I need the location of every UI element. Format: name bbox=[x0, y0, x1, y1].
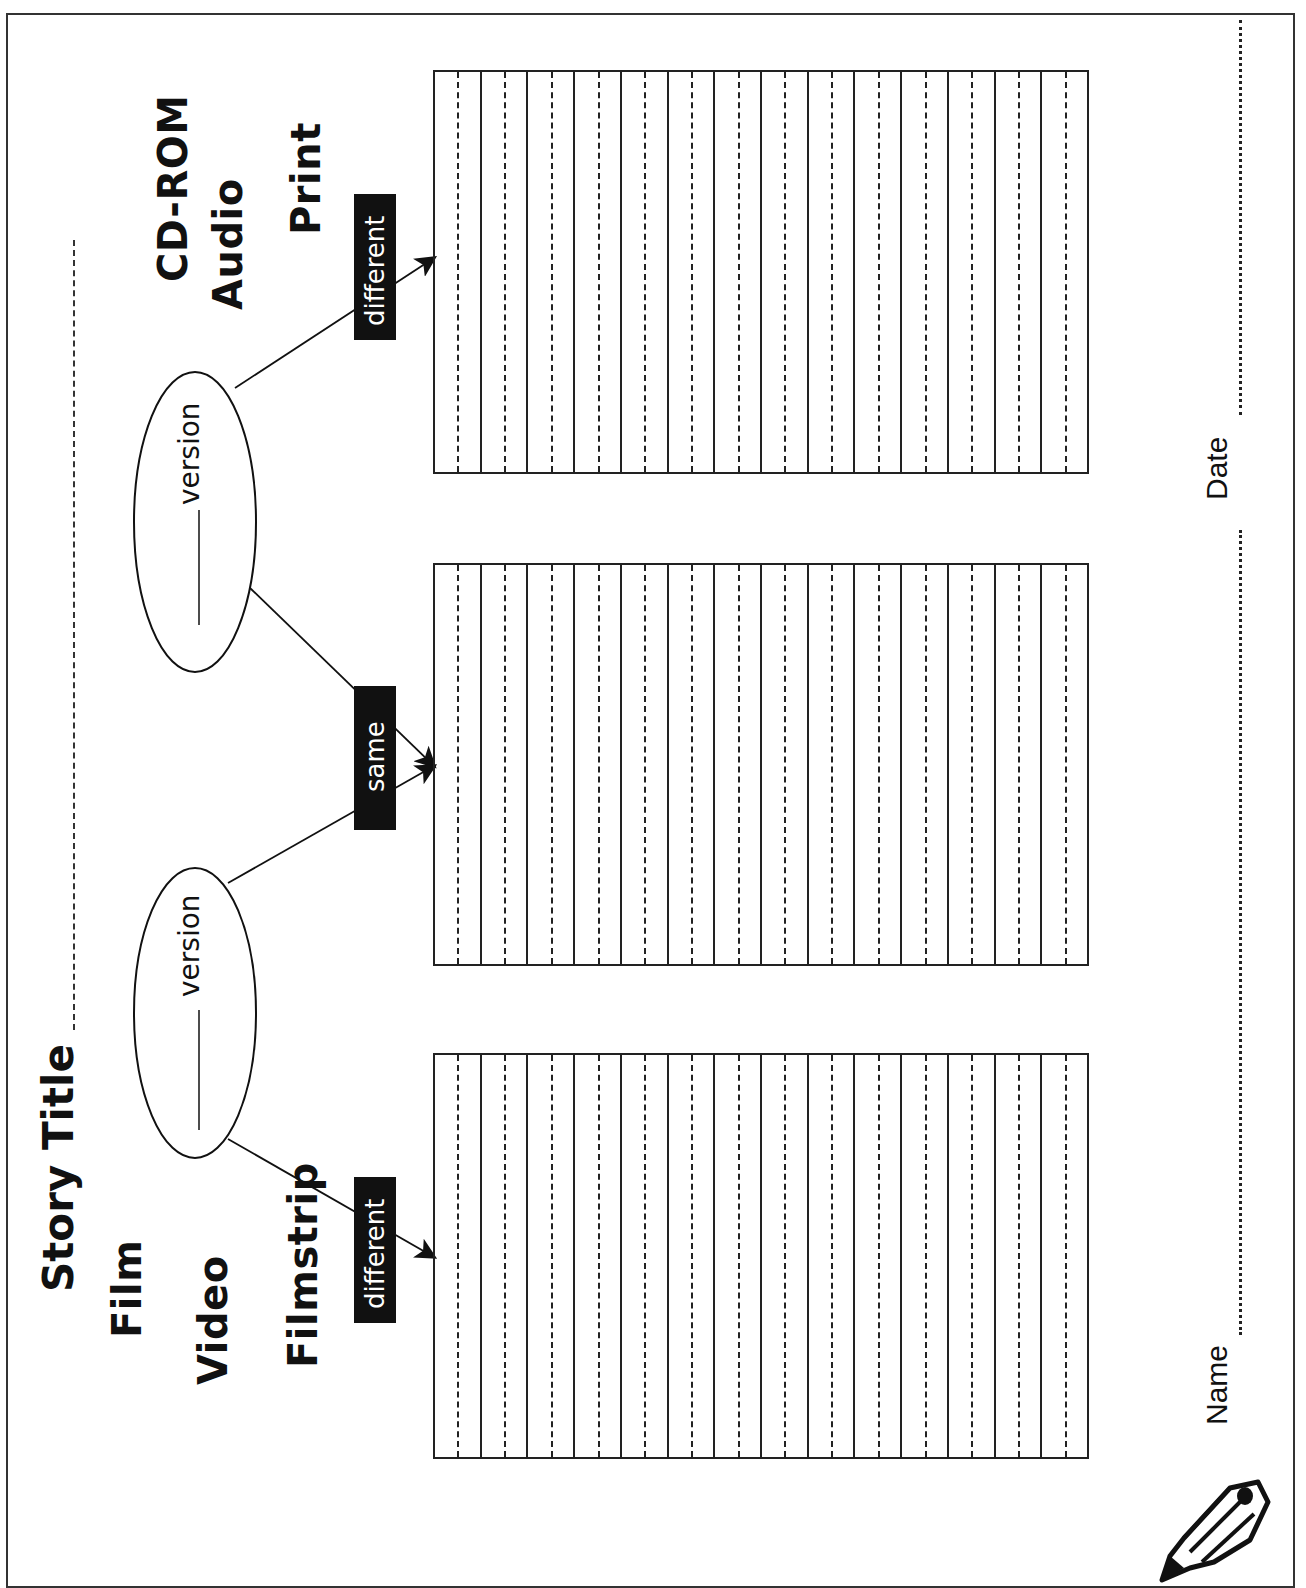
connector-label-same: same bbox=[354, 686, 396, 830]
name-label: Name bbox=[1200, 1345, 1234, 1425]
writing-box-right[interactable] bbox=[433, 70, 1089, 474]
writing-box-left[interactable] bbox=[433, 1053, 1089, 1459]
pencil-icon bbox=[1162, 1482, 1268, 1580]
date-label: Date bbox=[1200, 437, 1234, 500]
oval-version-label-1: version bbox=[173, 402, 206, 505]
writing-box-same[interactable] bbox=[433, 563, 1089, 966]
oval-version-label-2: version bbox=[173, 894, 206, 997]
connector-label-different-right: different bbox=[354, 194, 396, 340]
date-field[interactable] bbox=[1239, 20, 1242, 415]
connector-label-different-left: different bbox=[354, 1177, 396, 1323]
name-field[interactable] bbox=[1239, 530, 1242, 1335]
